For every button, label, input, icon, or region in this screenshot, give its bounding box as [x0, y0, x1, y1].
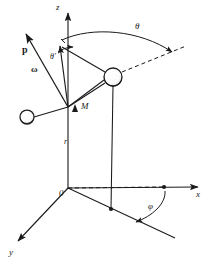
vector-omega: [60, 46, 68, 107]
theta-arc: [62, 32, 172, 52]
radius-vector-lower: [34, 107, 68, 117]
axis-label-y: y: [9, 248, 13, 257]
origin-label: 0: [59, 189, 64, 198]
angle-label-theta-prime: θ′: [50, 53, 56, 61]
x-axis-marker-dot: [162, 185, 166, 189]
vector-label-omega: ω: [31, 65, 38, 74]
point-m-label: M: [81, 102, 89, 111]
diagram-canvas: [0, 0, 209, 264]
radius-vector-dashed-tail: [122, 46, 186, 72]
observation-sphere: [104, 68, 122, 86]
vector-label-p: p: [22, 45, 28, 55]
length-label-r: r: [64, 138, 67, 146]
axis-label-z: z: [56, 3, 60, 12]
physics-diagram: z x y 0 M p ω θ θ′ φ r: [0, 0, 209, 264]
projection-foot-dot: [109, 207, 113, 211]
angle-label-theta: θ: [135, 22, 139, 31]
vertical-drop-line: [111, 86, 113, 209]
azimuth-ray: [68, 188, 175, 238]
angle-label-phi: φ: [148, 202, 153, 211]
charge-sphere: [20, 110, 34, 124]
axis-label-x: x: [196, 190, 200, 199]
point-m-marker: [72, 104, 78, 112]
